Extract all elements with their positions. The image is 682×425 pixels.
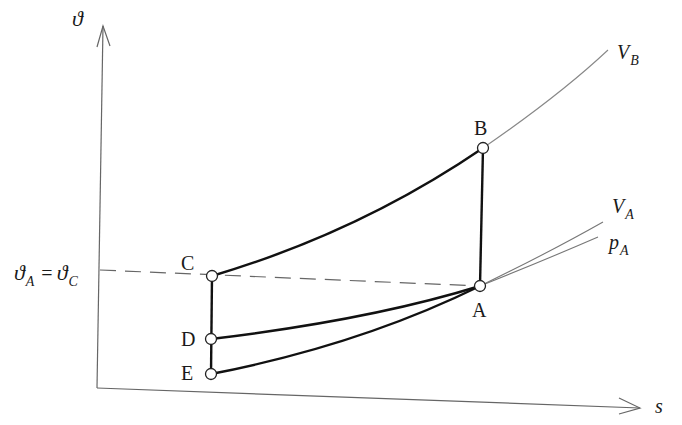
theta-A-subscript: A [26, 274, 35, 289]
x-axis-label: s [655, 396, 663, 416]
line-A-B [480, 148, 483, 286]
ts-diagram [0, 0, 682, 425]
isotherm-dashed-line [100, 270, 480, 286]
point-D-label: D [181, 329, 195, 349]
point-A-marker [475, 281, 486, 292]
x-axis-arrowhead [619, 398, 640, 414]
curve-VA [480, 222, 603, 286]
point-E-marker [206, 369, 217, 380]
curve-VB-main: V [617, 41, 629, 63]
curve-VA-sub: A [625, 207, 634, 222]
curve-VB [483, 50, 608, 148]
curve-pA [480, 237, 598, 286]
curve-VA-main: V [612, 195, 624, 217]
point-A-label: A [472, 300, 486, 320]
curve-VB-label: VB [617, 42, 638, 62]
curve-VB-sub: B [630, 53, 639, 68]
curve-C-B [212, 148, 483, 276]
point-C-marker [207, 271, 218, 282]
axes [97, 26, 640, 414]
y-axis-label: ϑ [72, 8, 83, 30]
curve-E-A [211, 286, 480, 374]
point-E-label: E [181, 363, 193, 383]
curve-VA-label: VA [612, 196, 633, 216]
point-B-label: B [474, 118, 487, 138]
point-C-label: C [181, 253, 194, 273]
theta-C-symbol: ϑ [57, 260, 68, 285]
point-D-marker [206, 334, 217, 345]
y-axis [97, 26, 103, 388]
curve-pA-sub: A [620, 243, 629, 258]
curve-pA-main: p [609, 231, 619, 253]
x-axis [97, 388, 640, 408]
line-C-E [211, 276, 212, 374]
point-B-marker [478, 143, 489, 154]
curve-pA-label: pA [609, 232, 628, 252]
state-points [206, 143, 489, 380]
equals-sign: = [41, 262, 52, 284]
process-lines [211, 148, 483, 374]
isotherm-label: ϑA = ϑC [14, 262, 77, 284]
curve-D-A [211, 286, 480, 339]
theta-A-symbol: ϑ [14, 260, 25, 285]
theta-C-subscript: C [68, 274, 77, 289]
y-axis-arrowhead [97, 26, 110, 47]
